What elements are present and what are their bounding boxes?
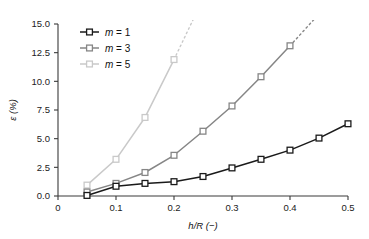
legend-label: m = 1 <box>105 27 131 38</box>
data-point-marker <box>171 152 177 158</box>
data-point-marker <box>287 43 293 49</box>
chart-plot: 0.02.55.07.510.012.515.000.10.20.30.40.5… <box>0 0 369 239</box>
x-tick-label: 0.2 <box>167 202 180 213</box>
series-3 <box>84 17 194 188</box>
data-point-marker <box>229 103 235 109</box>
y-tick-label: 0.0 <box>37 190 50 201</box>
series-line <box>87 124 348 196</box>
y-tick-label: 15.0 <box>32 18 51 29</box>
y-tick-label: 12.5 <box>32 47 51 58</box>
y-tick-label: 5.0 <box>37 133 50 144</box>
data-point-marker <box>171 57 177 63</box>
x-tick-label: 0.3 <box>225 202 238 213</box>
data-point-marker <box>113 156 119 162</box>
data-point-marker <box>113 183 119 189</box>
legend-item-1: m = 1 <box>80 27 131 38</box>
series-1 <box>84 121 351 198</box>
data-point-marker <box>345 121 351 127</box>
data-point-marker <box>258 74 264 80</box>
x-tick-label: 0.4 <box>283 202 296 213</box>
x-tick-label: 0 <box>55 202 60 213</box>
x-tick-label: 0.5 <box>341 202 354 213</box>
y-axis-title-group: ε (%) <box>7 99 18 121</box>
data-point-marker <box>84 193 90 199</box>
series-dashed-extension <box>290 17 316 46</box>
y-axis-title: ε (%) <box>7 99 18 121</box>
y-tick-label: 10.0 <box>32 76 51 87</box>
data-point-marker <box>200 128 206 134</box>
data-point-marker <box>316 135 322 141</box>
chart-container: 0.02.55.07.510.012.515.000.10.20.30.40.5… <box>0 0 369 239</box>
data-point-marker <box>142 170 148 176</box>
data-point-marker <box>200 174 206 180</box>
y-tick-label: 2.5 <box>37 162 50 173</box>
legend-marker <box>87 45 93 51</box>
series-dashed-extension <box>174 17 194 59</box>
legend-marker <box>87 61 93 67</box>
data-point-marker <box>142 180 148 186</box>
data-point-marker <box>142 115 148 121</box>
data-point-marker <box>258 156 264 162</box>
y-tick-label: 7.5 <box>37 104 50 115</box>
data-point-marker <box>229 165 235 171</box>
x-axis-title: h/R (−) <box>188 220 217 231</box>
legend-label: m = 3 <box>105 43 131 54</box>
data-point-marker <box>287 147 293 153</box>
legend-item-2: m = 3 <box>80 43 131 54</box>
legend-label: m = 5 <box>105 59 131 70</box>
data-point-marker <box>84 182 90 188</box>
series-line <box>87 60 174 186</box>
legend-item-3: m = 5 <box>80 59 131 70</box>
data-point-marker <box>171 179 177 185</box>
x-tick-label: 0.1 <box>109 202 122 213</box>
legend-marker <box>87 29 93 35</box>
